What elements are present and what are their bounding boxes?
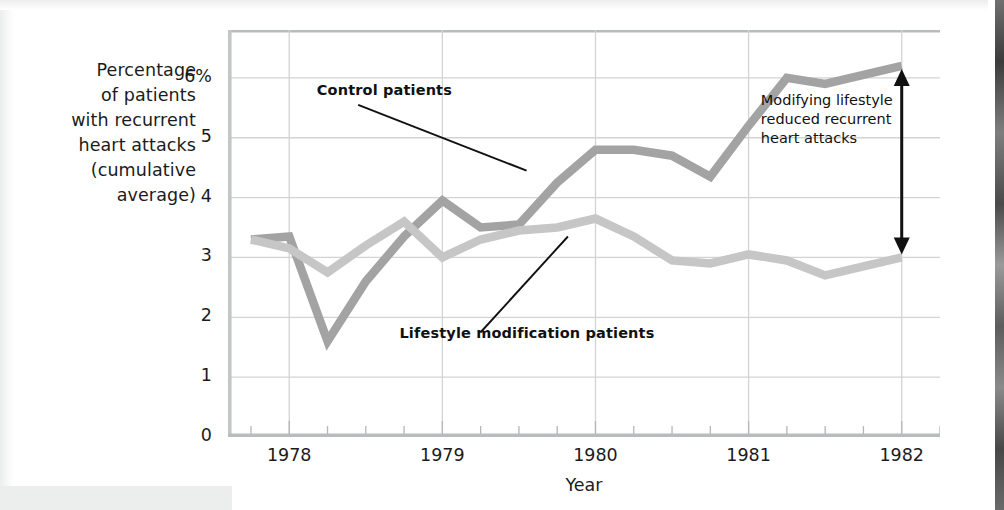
leader-line-control <box>358 105 526 171</box>
page-canvas: Percentage of patients with recurrent he… <box>0 0 1004 510</box>
leader-line-lifestyle <box>481 236 568 332</box>
x-tick-label-1982: 1982 <box>862 445 942 465</box>
y-axis-title-line-5: (cumulative <box>10 158 196 183</box>
difference-annotation-text: Modifying lifestyle reduced recurrent he… <box>761 91 941 148</box>
difference-arrow-head-up <box>894 69 910 86</box>
page-top-edge-shadow <box>0 0 1004 10</box>
series-label-lifestyle: Lifestyle modification patients <box>399 325 654 341</box>
x-tick-label-1981: 1981 <box>709 445 789 465</box>
series-label-control: Control patients <box>317 82 452 98</box>
x-tick-label-1979: 1979 <box>402 445 482 465</box>
x-tick-label-1980: 1980 <box>555 445 635 465</box>
y-axis-title-line-2: of patients <box>10 83 196 108</box>
x-axis-title: Year <box>514 475 654 495</box>
y-tick-label-3: 3 <box>168 245 212 265</box>
bottom-gray-band <box>0 486 232 510</box>
y-tick-label-2: 2 <box>168 305 212 325</box>
y-tick-label-1: 1 <box>168 365 212 385</box>
y-tick-label-4: 4 <box>168 186 212 206</box>
photo-strip-gutter <box>988 0 995 510</box>
y-tick-label-5: 5 <box>168 126 212 146</box>
y-tick-label-6: 6% <box>168 66 212 86</box>
photo-strip <box>995 0 1004 510</box>
x-tick-label-1978: 1978 <box>249 445 329 465</box>
difference-arrow-head-down <box>894 237 910 254</box>
y-tick-label-0: 0 <box>168 425 212 445</box>
